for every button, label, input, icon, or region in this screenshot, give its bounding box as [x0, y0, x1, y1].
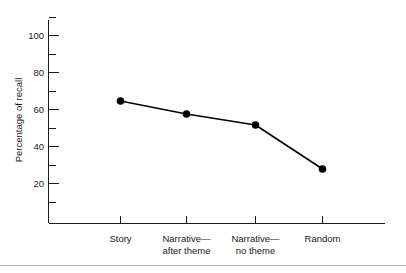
y-tick-label-80: 80: [33, 67, 44, 78]
y-tick-label-40: 40: [33, 141, 44, 152]
data-point-narrative-no-theme: [252, 121, 260, 129]
y-tick-label-100: 100: [28, 30, 44, 41]
line-chart: 100 80 60 40 20 Percentage of recall Sto…: [0, 0, 406, 273]
x-axis-group: Story Narrative— after theme Narrative— …: [49, 216, 386, 257]
data-point-narrative-after-theme: [183, 110, 191, 118]
series-line-recall: [121, 101, 323, 169]
bottom-divider: [0, 265, 406, 266]
x-label-narrative-after-theme-line1: Narrative—: [162, 233, 211, 244]
y-tick-label-60: 60: [33, 104, 44, 115]
y-axis-title: Percentage of recall: [13, 78, 24, 163]
x-label-narrative-no-theme-line2: no theme: [236, 245, 276, 256]
data-point-story: [117, 97, 125, 105]
chart-figure: 100 80 60 40 20 Percentage of recall Sto…: [0, 0, 406, 273]
y-tick-label-20: 20: [33, 178, 44, 189]
y-axis-group: 100 80 60 40 20 Percentage of recall: [13, 18, 59, 224]
x-label-narrative-no-theme-line1: Narrative—: [231, 233, 280, 244]
x-label-story-line1: Story: [109, 233, 131, 244]
x-label-narrative-after-theme-line2: after theme: [162, 245, 210, 256]
data-point-random: [319, 165, 327, 173]
data-series-recall: [117, 97, 327, 173]
x-label-random-line1: Random: [305, 233, 341, 244]
